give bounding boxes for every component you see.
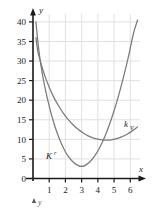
x-tick-label: 5 [112,185,117,195]
curve-label-k-r-base: K [45,151,53,161]
curves-group [36,20,138,166]
y-tick-label: 5 [22,154,27,164]
y-tick-label: 10 [17,135,27,145]
x-tick-label: 6 [128,185,133,195]
y-axis-label: y [38,5,43,15]
y-tick-label: 25 [17,76,27,86]
curve-k-v [36,38,138,141]
y-tick-label: 20 [17,95,27,105]
origin-label: 0 [22,174,27,184]
x-axis-label: x [138,164,143,174]
x-tick-label: 1 [47,185,52,195]
x-tick-label: 4 [96,185,101,195]
curve-label-k-v-base: k [124,119,129,129]
chart-plot-area: 123456 0510152025303540 x y K r k V y [0,0,157,214]
x-axis-tick-labels: 123456 [47,185,133,195]
y-tick-label: 15 [17,115,27,125]
y-tick-label: 40 [17,17,27,27]
chart-figure: 123456 0510152025303540 x y K r k V y [0,0,157,214]
stray-y-glyph-text: y [37,198,42,207]
x-tick-label: 3 [79,185,84,195]
x-tick-label: 2 [63,185,68,195]
curve-label-k-r-subscript: r [54,150,57,156]
y-tick-label: 30 [17,56,27,66]
axis-lines [26,8,146,181]
stray-y-marker: y [32,198,42,207]
y-tick-label: 35 [17,37,27,47]
y-axis-tick-labels: 0510152025303540 [17,17,27,184]
